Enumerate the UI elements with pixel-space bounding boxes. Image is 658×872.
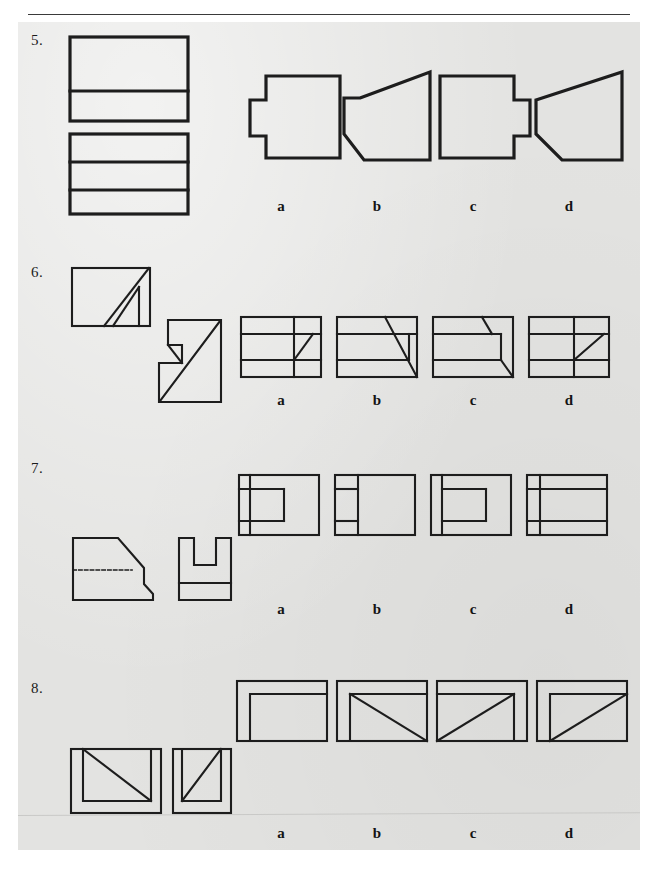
q5-top-view <box>68 35 190 123</box>
q5-option-b-shape[interactable] <box>342 70 436 162</box>
question-number-7: 7. <box>31 460 43 477</box>
q6-option-label-a: a <box>270 392 292 409</box>
q5-option-d-shape[interactable] <box>534 70 628 162</box>
q7-option-d-shape[interactable] <box>526 474 608 536</box>
q5-option-label-b: b <box>366 198 388 215</box>
q8-option-a-shape[interactable] <box>236 680 328 742</box>
q6-option-c-shape[interactable] <box>432 316 514 378</box>
q6-option-label-b: b <box>366 392 388 409</box>
q7-option-c-shape[interactable] <box>430 474 512 536</box>
q6-option-a-shape[interactable] <box>240 316 322 378</box>
q7-side-view <box>178 537 232 601</box>
q8-option-b-shape[interactable] <box>336 680 428 742</box>
header-rule <box>28 14 630 15</box>
q7-option-label-d: d <box>558 601 580 618</box>
q8-option-label-a: a <box>270 825 292 842</box>
question-number-5: 5. <box>31 32 43 49</box>
q7-option-b-shape[interactable] <box>334 474 416 536</box>
q5-option-label-d: d <box>558 198 580 215</box>
question-number-6: 6. <box>31 264 43 281</box>
question-number-8: 8. <box>31 680 43 697</box>
q7-option-label-b: b <box>366 601 388 618</box>
q8-option-d-shape[interactable] <box>536 680 628 742</box>
workbook-page: 5. a b c d 6. <box>0 0 658 872</box>
q6-option-label-c: c <box>462 392 484 409</box>
q6-option-label-d: d <box>558 392 580 409</box>
q8-option-label-b: b <box>366 825 388 842</box>
q5-option-label-c: c <box>462 198 484 215</box>
q5-option-c-shape[interactable] <box>438 74 532 160</box>
q8-option-label-d: d <box>558 825 580 842</box>
q8-option-c-shape[interactable] <box>436 680 528 742</box>
q7-option-a-shape[interactable] <box>238 474 320 536</box>
q6-front-view <box>158 319 222 403</box>
q8-top-view <box>70 748 162 814</box>
q6-top-view <box>71 267 151 327</box>
q7-option-label-a: a <box>270 601 292 618</box>
q5-option-a-shape[interactable] <box>248 74 342 160</box>
q5-option-label-a: a <box>270 198 292 215</box>
q6-option-b-shape[interactable] <box>336 316 418 378</box>
q7-front-view <box>72 537 154 601</box>
q6-option-d-shape[interactable] <box>528 316 610 378</box>
q8-option-label-c: c <box>462 825 484 842</box>
q8-side-view <box>172 748 232 814</box>
q5-front-view <box>68 132 190 216</box>
q7-option-label-c: c <box>462 601 484 618</box>
